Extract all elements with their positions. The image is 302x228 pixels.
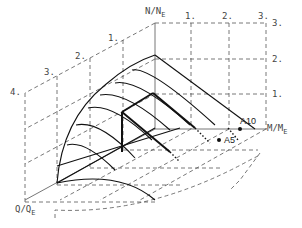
point-a10-label: A10 bbox=[240, 117, 256, 126]
point-a10 bbox=[238, 127, 242, 131]
m-tick-2: 2. bbox=[222, 12, 233, 21]
dotted-extensions bbox=[170, 128, 238, 162]
q-tick-3: 3. bbox=[44, 68, 55, 77]
interaction-diagram bbox=[0, 0, 302, 228]
q-tick-2: 2. bbox=[75, 52, 86, 61]
point-a5-label: A5 bbox=[224, 136, 235, 145]
nm-plane-grid bbox=[155, 23, 266, 129]
nq-plane-grid bbox=[25, 23, 155, 202]
n-axis-label: N/NE bbox=[145, 7, 165, 16]
n-tick-1: 1. bbox=[272, 90, 283, 99]
m-tick-1: 1. bbox=[185, 12, 196, 21]
n-tick-3: 3. bbox=[272, 19, 283, 28]
q-tick-1: 1. bbox=[108, 34, 119, 43]
n-tick-2: 2. bbox=[272, 55, 283, 64]
failure-surface bbox=[57, 55, 255, 200]
m-tick-3: 3. bbox=[258, 12, 269, 21]
m-axis-label: M/ME bbox=[267, 124, 287, 133]
q-axis-label: Q/QE bbox=[15, 205, 35, 214]
q-tick-4: 4. bbox=[10, 88, 21, 97]
point-a5 bbox=[217, 138, 221, 142]
highlighted-section bbox=[122, 93, 195, 152]
